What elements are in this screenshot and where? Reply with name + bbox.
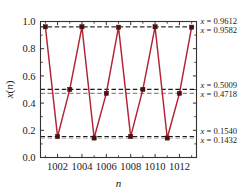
data-point-marker (129, 134, 133, 138)
data-point-marker (92, 136, 96, 140)
data-point-marker (190, 25, 194, 29)
annotation-labels-group: x = 0.9612x = 0.9582x = 0.5009x = 0.4718… (200, 16, 238, 145)
data-point-marker (153, 25, 157, 29)
reference-line-label: x = 0.4718 (200, 89, 238, 99)
y-tick-label: 0.0 (22, 152, 35, 163)
data-point-marker (68, 87, 72, 91)
data-point-marker (141, 87, 145, 91)
y-tick-label: 0.4 (22, 98, 36, 109)
reference-line-label: x = 0.9582 (200, 25, 238, 35)
data-point-marker (165, 136, 169, 140)
axis-titles-group: nx(n) (3, 80, 122, 188)
reference-lines-group (41, 27, 197, 138)
figure-container: 0.00.20.40.60.81.01002100410061008101010… (0, 0, 251, 193)
y-tick-label: 0.2 (22, 125, 35, 136)
y-axis-title: x(n) (3, 80, 16, 99)
x-tick-label: 1004 (71, 161, 93, 172)
y-tick-label: 0.8 (22, 43, 35, 54)
y-tick-label: 1.0 (22, 16, 35, 27)
x-tick-label: 1006 (96, 161, 117, 172)
data-point-marker (177, 91, 181, 95)
reference-line-label: x = 0.1432 (200, 135, 238, 145)
chart-canvas: 0.00.20.40.60.81.01002100410061008101010… (0, 0, 251, 193)
data-point-marker (104, 91, 108, 95)
y-tick-label: 0.6 (22, 71, 35, 82)
x-tick-label: 1012 (169, 161, 190, 172)
data-line (45, 27, 191, 138)
data-series-group (43, 25, 193, 140)
data-point-marker (55, 134, 59, 138)
x-tick-label: 1002 (47, 161, 68, 172)
x-tick-label: 1008 (120, 161, 141, 172)
data-point-marker (116, 25, 120, 29)
x-axis-title: n (116, 177, 122, 189)
x-tick-label: 1010 (145, 161, 166, 172)
data-point-marker (43, 25, 47, 29)
data-point-marker (80, 25, 84, 29)
